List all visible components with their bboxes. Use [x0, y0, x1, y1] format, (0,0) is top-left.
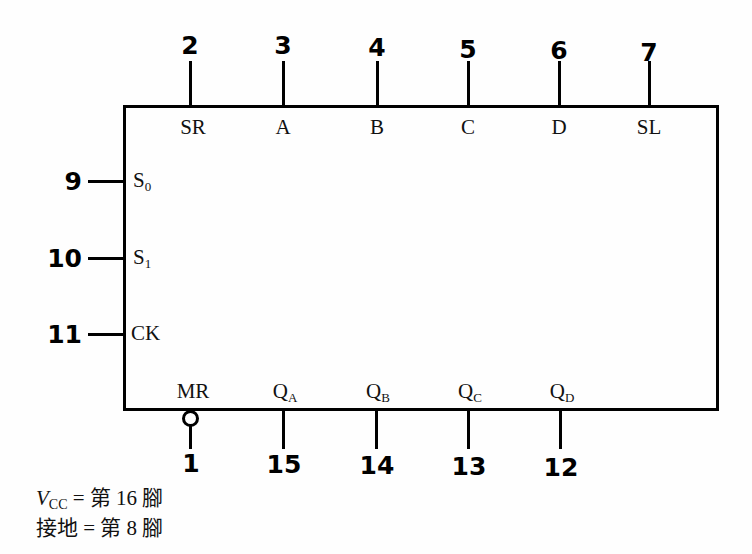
caption-vcc-rest: = 第 16 腳 [68, 486, 164, 510]
port-label-c-text: C [461, 115, 475, 139]
pin-lead-6 [558, 61, 561, 107]
caption-vcc-symbol: V [36, 486, 49, 510]
port-label-d-text: D [551, 115, 566, 139]
pin-lead-13 [467, 410, 470, 449]
pin-number-2: 2 [181, 33, 198, 58]
pin-number-9: 9 [40, 169, 82, 194]
pin-lead-15 [282, 410, 285, 449]
pin-lead-4 [376, 61, 379, 107]
port-label-sl-text: SL [637, 115, 662, 139]
chip-body-outline [123, 105, 719, 411]
port-label-sr-text: SR [180, 115, 206, 139]
inverting-bubble-icon [182, 410, 199, 427]
port-label-d: D [551, 117, 566, 138]
port-label-qc: QC [458, 381, 482, 402]
pin-lead-11 [88, 333, 125, 336]
port-label-qb-text: Q [366, 379, 381, 403]
port-label-b: B [370, 117, 384, 138]
port-label-s0-text: S [133, 168, 145, 192]
port-label-s1-sub: 1 [145, 256, 152, 271]
diagram-canvas: 2 3 4 5 6 7 SR A B C D SL 9 10 11 S0 S1 … [0, 0, 752, 554]
pin-lead-1 [189, 426, 192, 449]
port-label-s0-sub: 0 [145, 179, 152, 194]
pin-number-3: 3 [274, 33, 291, 58]
pin-number-14: 14 [360, 453, 395, 478]
pin-lead-2 [189, 61, 192, 107]
caption-ground: 接地 = 第 8 腳 [36, 513, 163, 543]
caption-vcc-subscript: CC [49, 497, 68, 512]
pin-number-11: 11 [34, 322, 82, 347]
port-label-s1-text: S [133, 245, 145, 269]
port-label-s1: S1 [133, 247, 151, 268]
port-label-a-text: A [275, 115, 290, 139]
port-label-a: A [275, 117, 290, 138]
pin-number-10: 10 [34, 246, 82, 271]
pin-lead-10 [88, 257, 125, 260]
pin-lead-5 [467, 61, 470, 107]
pin-number-4: 4 [368, 35, 385, 60]
pin-lead-12 [559, 410, 562, 449]
port-label-qc-text: Q [458, 379, 473, 403]
port-label-mr: MR [177, 381, 210, 402]
caption-vcc: VCC = 第 16 腳 [36, 483, 163, 516]
port-label-qb: QB [366, 381, 390, 402]
port-label-qa-text: Q [273, 379, 288, 403]
pin-lead-3 [282, 61, 285, 107]
pin-number-5: 5 [459, 37, 476, 62]
pin-lead-9 [88, 180, 125, 183]
pin-lead-7 [648, 61, 651, 107]
pin-number-15: 15 [267, 452, 302, 477]
port-label-mr-text: MR [177, 379, 210, 403]
pin-number-7: 7 [640, 40, 657, 65]
port-label-ck: CK [131, 323, 160, 344]
port-label-qb-sub: B [381, 390, 390, 405]
port-label-qa: QA [273, 381, 298, 402]
port-label-sr: SR [180, 117, 206, 138]
port-label-ck-text: CK [131, 321, 160, 345]
port-label-b-text: B [370, 115, 384, 139]
port-label-qd-sub: D [565, 390, 574, 405]
pin-number-12: 12 [544, 455, 579, 480]
pin-number-6: 6 [550, 38, 567, 63]
port-label-qa-sub: A [288, 390, 297, 405]
pin-number-13: 13 [452, 454, 487, 479]
port-label-qd-text: Q [550, 379, 565, 403]
pin-lead-14 [375, 410, 378, 449]
port-label-qd: QD [550, 381, 575, 402]
port-label-c: C [461, 117, 475, 138]
port-label-qc-sub: C [473, 390, 482, 405]
port-label-sl: SL [637, 117, 662, 138]
pin-number-1: 1 [182, 451, 199, 476]
port-label-s0: S0 [133, 170, 151, 191]
